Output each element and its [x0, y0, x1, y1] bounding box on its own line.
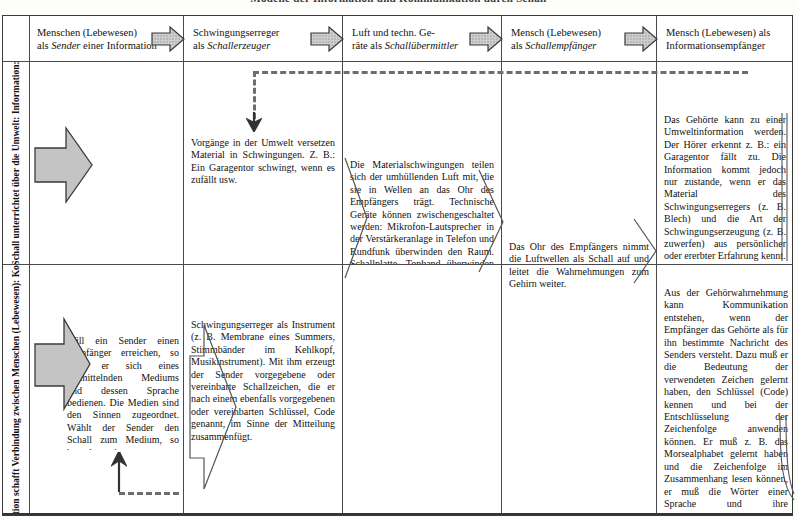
empfaenger-emphasis: Schallempfänger	[525, 40, 596, 51]
row-label-information-text: Schall unterrichtet über die Umwelt: Inf…	[11, 62, 22, 264]
empfaenger-prefix: als	[511, 40, 525, 51]
column-rule-left	[29, 16, 30, 515]
arrow-right-icon-row1-col5	[631, 216, 659, 286]
row-label-information: Schall unterrichtet über die Umwelt: Inf…	[3, 62, 29, 264]
diagram-frame: Menschen (Lebewesen) als Sender einer In…	[2, 15, 793, 516]
block-arrow-right-icon-3	[469, 26, 503, 52]
block-arrow-right-icon-1	[151, 26, 185, 52]
block-arrow-right-icon-2	[310, 26, 344, 52]
row-label-kommunikation-text: Schallinformation schafft Verbindung zwi…	[11, 265, 22, 513]
block-arrow-right-icon-row1-col1	[34, 126, 94, 204]
uebermittler-emphasis: Schallübermittler	[385, 40, 459, 51]
diagram-page: Modelle der Information und Kommunikatio…	[0, 0, 797, 518]
cell-information-informationsempfaenger: Das Gehörte kann zu einer Umweltinformat…	[658, 111, 792, 263]
bracket-icon-row1-col5	[779, 111, 793, 263]
sender-prefix: als	[37, 40, 51, 51]
cell-information-schwingungserreger-text: Vorgänge in der Umwelt versetzen Materia…	[191, 137, 335, 187]
document-title: Modelle der Information und Kommunikatio…	[0, 0, 797, 2]
cell-information-uebermittler-text: Die Materialschwingungen teilen sich der…	[350, 159, 494, 264]
arrow-down-icon-col2	[246, 112, 262, 132]
sender-suffix: einer Information	[80, 40, 156, 51]
column-header-informationsempfaenger: Mensch (Lebewesen) als Informationsempfä…	[662, 16, 792, 61]
header-bottom-rule	[3, 61, 792, 62]
sender-emphasis: Sender	[51, 40, 80, 51]
row-divider-rule	[3, 264, 792, 265]
column-header-informationsempfaenger-line1: Mensch (Lebewesen) als	[666, 26, 788, 39]
bottom-rule	[3, 513, 792, 515]
schwinger-emphasis: Schallerzeuger	[207, 40, 270, 51]
block-arrow-right-icon-4	[624, 26, 658, 52]
dashed-guide-top	[253, 71, 748, 74]
bracket-icon-row2-col5	[777, 416, 795, 506]
uebermittler-prefix: räte als	[352, 40, 385, 51]
block-arrow-right-icon-row2-col2	[34, 316, 92, 412]
schwinger-prefix: als	[193, 40, 207, 51]
dashed-guide-bottom-col1	[119, 492, 179, 495]
block-arrow-right-icon-row2-col3	[188, 322, 238, 492]
arrow-right-icon-row1-col4	[477, 166, 505, 276]
cell-information-informationsempfaenger-text: Das Gehörte kann zu einer Umweltinformat…	[664, 114, 786, 263]
cell-information-empfaenger-text: Das Ohr des Empfängers nimmt die Luftwel…	[509, 241, 649, 291]
cell-kommunikation-informationsempfaenger-text: Aus der Gehörwahrnehmung kann Kommunikat…	[664, 287, 788, 510]
cell-information-schwingungserreger: Vorgänge in der Umwelt versetzen Materia…	[185, 134, 341, 262]
column-header-informationsempfaenger-line2: Informationsempfänger	[666, 39, 788, 52]
header-band: Menschen (Lebewesen) als Sender einer In…	[3, 16, 792, 61]
arrow-right-icon-row1-col3	[343, 156, 369, 286]
row-label-kommunikation: Schallinformation schafft Verbindung zwi…	[3, 265, 29, 513]
arrow-up-icon-col1	[111, 452, 127, 492]
cell-kommunikation-informationsempfaenger: Aus der Gehörwahrnehmung kann Kommunikat…	[658, 284, 794, 510]
